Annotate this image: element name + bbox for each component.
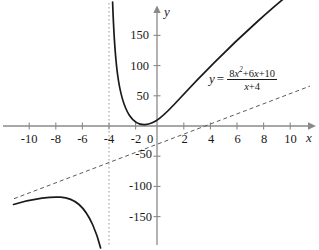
plot-canvas [0,0,319,250]
y-tick-label: -50 [118,147,152,160]
x-axis-label: x [306,131,312,144]
equation-annotation: y = 8x2+6x+10 x+4 [209,66,277,92]
x-tick-label: 8 [261,133,267,146]
x-tick-label: -6 [77,133,87,146]
x-tick-label: 2 [181,133,187,146]
x-axis-arrowhead [308,122,316,130]
x-tick-label: 6 [234,133,240,146]
x-tick-label: -2 [131,133,141,146]
equation-denominator: x+4 [242,80,262,92]
numerator-constant: +10 [259,68,275,79]
function-curve-left-branch [14,197,101,248]
x-tick-label: 4 [208,133,214,146]
y-axis-arrowhead [153,6,160,14]
y-axis-label: y [164,5,170,18]
x-tick-label: -10 [21,133,38,146]
y-tick-label: 100 [118,59,149,72]
x-tick-label-zero: 0 [147,133,153,146]
y-tick-label: 50 [118,90,149,103]
x-tick-label: -4 [104,133,114,146]
equation-numerator: 8x2+6x+10 [227,66,277,79]
function-graph-figure: -10 -8 -6 -4 -2 0 2 4 6 8 10 150 100 50 … [0,0,319,250]
y-tick-label: -100 [114,180,152,193]
y-tick-label: 150 [118,29,149,42]
numerator-linear-coefficient: +6 [243,68,254,79]
equation-fraction: 8x2+6x+10 x+4 [227,66,277,92]
equation-lhs: y [209,71,215,87]
equation-equals-sign: = [217,71,224,87]
y-tick-label: -150 [114,210,152,223]
denominator-constant: +4 [249,81,260,92]
x-tick-label: -8 [51,133,61,146]
x-tick-label: 10 [284,133,297,146]
